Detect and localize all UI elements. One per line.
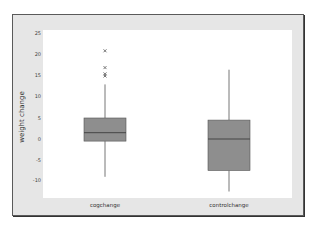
- boxplot-svg: [0, 0, 317, 228]
- box-iqr: [208, 120, 250, 170]
- outlier-marker: [104, 49, 107, 52]
- outlier-marker: [104, 66, 107, 69]
- outlier-marker: [104, 75, 107, 78]
- box-iqr: [84, 118, 126, 141]
